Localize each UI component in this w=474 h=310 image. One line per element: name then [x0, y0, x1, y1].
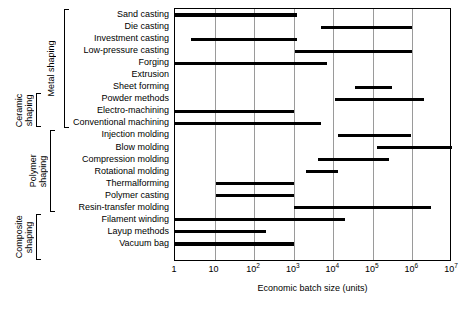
x-tick-label: 105	[352, 264, 392, 274]
bar-row	[175, 93, 450, 105]
range-bar	[175, 122, 321, 125]
bar-row	[175, 142, 450, 154]
range-bar	[318, 158, 389, 161]
plot-area	[174, 8, 451, 261]
category-label: Low-pressure casting	[0, 44, 172, 56]
category-label: Die casting	[0, 20, 172, 32]
category-label: Sand casting	[0, 8, 172, 20]
bar-row	[175, 21, 450, 33]
bar-row	[175, 105, 450, 117]
category-label: Sheet forming	[0, 80, 172, 92]
category-label: Powder methods	[0, 92, 172, 104]
category-label: Investment casting	[0, 32, 172, 44]
bar-row	[175, 69, 450, 81]
range-bar	[377, 146, 452, 149]
category-label: Polymer casting	[0, 189, 172, 201]
x-tick-label: 106	[391, 264, 431, 274]
bar-row	[175, 154, 450, 166]
x-tick-label: 10	[194, 264, 234, 274]
range-bar	[306, 170, 338, 173]
range-bar	[321, 26, 412, 29]
range-bar	[216, 194, 294, 197]
x-axis-title: Economic batch size (units)	[174, 283, 451, 293]
range-bar	[295, 50, 412, 53]
category-label: Blow molding	[0, 141, 172, 153]
x-tick-label: 103	[273, 264, 313, 274]
range-bar	[335, 98, 424, 101]
bar-row	[175, 214, 450, 226]
bar-row	[175, 9, 450, 21]
category-label: Injection molding	[0, 128, 172, 140]
range-bar	[175, 62, 327, 65]
bar-row	[175, 226, 450, 238]
range-bar	[175, 110, 294, 113]
bar-row	[175, 45, 450, 57]
range-bar	[191, 38, 297, 41]
bar-row	[175, 202, 450, 214]
category-label: Resin-transfer molding	[0, 201, 172, 213]
range-bar	[175, 242, 294, 245]
range-bar	[175, 13, 297, 16]
category-label-column: Sand castingDie castingInvestment castin…	[0, 8, 172, 249]
bar-row	[175, 130, 450, 142]
range-bar	[338, 134, 411, 137]
range-bar	[216, 182, 294, 185]
category-label: Rotational molding	[0, 165, 172, 177]
bar-row	[175, 33, 450, 45]
bar-row	[175, 81, 450, 93]
range-bar	[294, 206, 432, 209]
category-label: Electro-machining	[0, 104, 172, 116]
x-tick-label: 1	[154, 264, 194, 274]
chart-figure: Metal shapingCeramic shapingPolymer shap…	[0, 0, 474, 310]
x-tick-label: 107	[431, 264, 471, 274]
category-label: Filament winding	[0, 213, 172, 225]
x-tick-label: 104	[312, 264, 352, 274]
bar-row	[175, 117, 450, 129]
category-label: Layup methods	[0, 225, 172, 237]
category-label: Compression molding	[0, 153, 172, 165]
category-label: Vacuum bag	[0, 237, 172, 249]
category-label: Thermalforming	[0, 177, 172, 189]
bar-row	[175, 190, 450, 202]
bar-row	[175, 238, 450, 250]
range-bar	[175, 218, 345, 221]
x-tick-label: 102	[233, 264, 273, 274]
range-bar	[175, 230, 266, 233]
bar-row	[175, 166, 450, 178]
bar-row	[175, 178, 450, 190]
category-label: Forging	[0, 56, 172, 68]
category-label: Conventional machining	[0, 116, 172, 128]
range-bar	[355, 86, 392, 89]
bar-row	[175, 57, 450, 69]
category-label: Extrusion	[0, 68, 172, 80]
